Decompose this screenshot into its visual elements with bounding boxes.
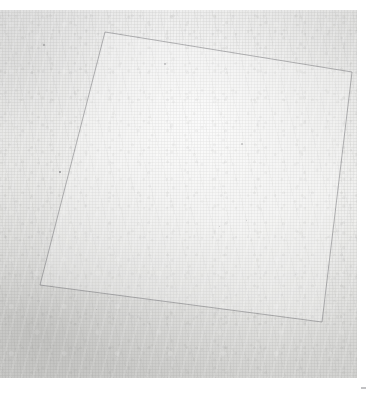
speck-upper-left: [43, 44, 45, 46]
speck-lower-left: [96, 309, 97, 310]
canvas-mottle-texture: [0, 10, 357, 378]
canvas-weave-texture: [0, 10, 357, 378]
tilted-square-shape: [40, 32, 352, 322]
speck-lower-right: [246, 220, 247, 221]
top-margin: [0, 0, 372, 10]
bottom-margin: [0, 378, 372, 396]
canvas-streak-texture: [0, 10, 357, 378]
painting-canvas: [0, 10, 357, 378]
artwork-plate: [0, 0, 372, 396]
speck-upper-mid: [164, 63, 166, 65]
tilted-square-glow-shape: [40, 32, 352, 322]
corner-registration-mark: [361, 387, 366, 389]
tilted-square-outline: [0, 10, 357, 378]
speck-mid-left: [59, 171, 61, 173]
photograph-vignette: [0, 10, 357, 378]
speck-lower-center: [219, 226, 220, 227]
right-margin: [357, 0, 372, 396]
speck-center: [241, 143, 243, 145]
tilted-square-inner-glow: [0, 10, 357, 378]
